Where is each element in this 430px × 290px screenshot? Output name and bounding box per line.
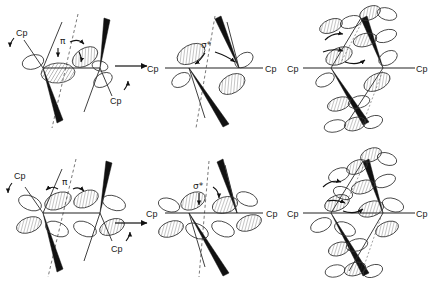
cp-label: Cp <box>147 64 159 74</box>
orbital-lobe <box>91 69 115 90</box>
orbital-lobe <box>169 69 193 90</box>
orbital-lobe <box>71 186 101 211</box>
cp-label: Cp <box>266 209 278 219</box>
motion-arrow <box>8 183 12 193</box>
dashed-axis <box>199 161 209 277</box>
orbital-lobe <box>16 192 43 214</box>
motion-arrow <box>10 38 14 47</box>
cp-label: Cp <box>265 64 277 74</box>
orbital-lobe <box>178 188 208 214</box>
orbital-lobe <box>209 218 237 241</box>
curved-arrow <box>73 188 84 191</box>
orbital-lobe <box>157 195 182 214</box>
cp-label: Cp <box>287 64 299 74</box>
sigma-star-label: σ* <box>193 181 204 191</box>
curved-arrow <box>325 34 343 40</box>
orbital-lobe <box>313 70 336 90</box>
wedge-down <box>331 68 369 125</box>
orbital-lobe <box>215 69 248 99</box>
curved-arrow <box>46 187 58 190</box>
orbital-lobe <box>308 215 333 236</box>
pi-label: π <box>60 36 66 46</box>
orbital-lobe <box>234 189 259 209</box>
cp-label: Cp <box>110 96 122 106</box>
curved-arrow <box>213 187 219 198</box>
orbital-lobe <box>357 3 382 24</box>
cp-label: Cp <box>416 209 428 219</box>
dashed-axis <box>196 16 215 128</box>
wedge-down-left <box>43 213 63 272</box>
cp-label: Cp <box>146 209 158 219</box>
curved-arrow <box>70 40 84 44</box>
orbital-lobe <box>324 263 346 279</box>
cp-label: Cp <box>287 209 299 219</box>
sigma-star-label: σ* <box>201 40 212 50</box>
orbital-lobe <box>40 62 75 84</box>
orbital-lobe <box>20 52 45 72</box>
cp-label: Cp <box>14 171 26 181</box>
panel-bottom-middle: σ* Cp Cp <box>143 145 286 290</box>
orbital-lobe <box>14 214 44 237</box>
wedge-down <box>189 213 229 276</box>
motion-arrow <box>126 232 130 241</box>
cp-label: Cp <box>416 64 428 74</box>
cp-label: Cp <box>111 244 123 254</box>
orbital-lobe <box>374 27 399 45</box>
thin-bond-b <box>84 68 100 112</box>
orbital-lobe <box>381 195 406 214</box>
cp-label: Cp <box>16 28 28 38</box>
orbital-lobe <box>322 191 352 215</box>
orbital-lobe <box>361 69 393 96</box>
thin-bond-a <box>189 213 205 267</box>
pi-label: π <box>62 177 68 187</box>
orbital-lobe <box>373 218 400 240</box>
orbital-lobe <box>323 43 355 69</box>
motion-arrow <box>124 81 128 90</box>
panel-top-middle: σ* Cp Cp <box>143 0 286 145</box>
wedge-up-right <box>100 161 112 213</box>
wedge-down <box>189 68 229 127</box>
panel-top-right: Cp Cp <box>287 0 430 145</box>
orbital-lobe <box>156 218 186 241</box>
thin-bond-a <box>189 68 205 118</box>
orbital-diagram-figure: π Cp Cp σ* <box>0 0 430 290</box>
orbital-lobe <box>42 188 74 213</box>
orbital-lobe <box>69 42 102 71</box>
cp-bond-left <box>24 40 43 68</box>
wedge-up-right <box>100 18 110 68</box>
orbital-lobe <box>376 47 400 68</box>
orbital-lobe <box>323 118 347 134</box>
orbital-lobe <box>234 212 264 235</box>
panel-bottom-right: Cp Cp <box>287 145 430 290</box>
curved-arrow <box>345 60 365 64</box>
